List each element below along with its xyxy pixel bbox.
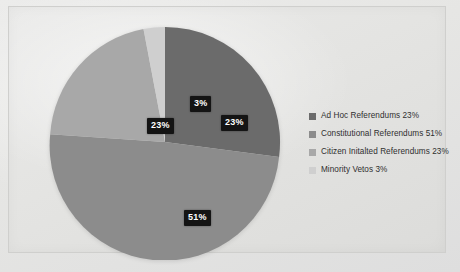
legend-item-label: Ad Hoc Referendums 23% xyxy=(321,112,419,120)
pie-chart: 23% 51% 23% 3% xyxy=(47,24,283,260)
legend-swatch-icon xyxy=(309,149,316,156)
pie-data-label-citizen-initated-referendums: 23% xyxy=(147,118,174,134)
legend-item-label: Minority Vetos 3% xyxy=(321,166,387,174)
pie-data-label-minority-vetos: 3% xyxy=(190,96,211,112)
legend-item-ad-hoc-referendums[interactable]: Ad Hoc Referendums 23% xyxy=(309,107,451,125)
legend-item-citizen-initated-referendums[interactable]: Citizen Initalted Referendums 23% xyxy=(309,143,451,161)
legend-item-minority-vetos[interactable]: Minority Vetos 3% xyxy=(309,161,451,179)
pie-data-label-ad-hoc-referendums: 23% xyxy=(221,115,248,131)
legend-swatch-icon xyxy=(309,113,316,120)
chart-legend: Ad Hoc Referendums 23% Constitutional Re… xyxy=(309,107,451,179)
chart-frame: 23% 51% 23% 3% Ad Hoc Referendums 23% Co… xyxy=(8,6,446,253)
legend-swatch-icon xyxy=(309,131,316,138)
pie-slice-ad-hoc-referendums[interactable] xyxy=(165,27,280,157)
pie-svg xyxy=(47,24,283,260)
legend-swatch-icon xyxy=(309,167,316,174)
pie-slice-constitutional-referendums[interactable] xyxy=(50,134,279,260)
pie-data-label-constitutional-referendums: 51% xyxy=(184,210,211,226)
legend-item-constitutional-referendums[interactable]: Constitutional Referendums 51% xyxy=(309,125,451,143)
legend-item-label: Citizen Initalted Referendums 23% xyxy=(321,148,449,156)
chart-page: 23% 51% 23% 3% Ad Hoc Referendums 23% Co… xyxy=(0,0,460,272)
legend-item-label: Constitutional Referendums 51% xyxy=(321,130,442,138)
